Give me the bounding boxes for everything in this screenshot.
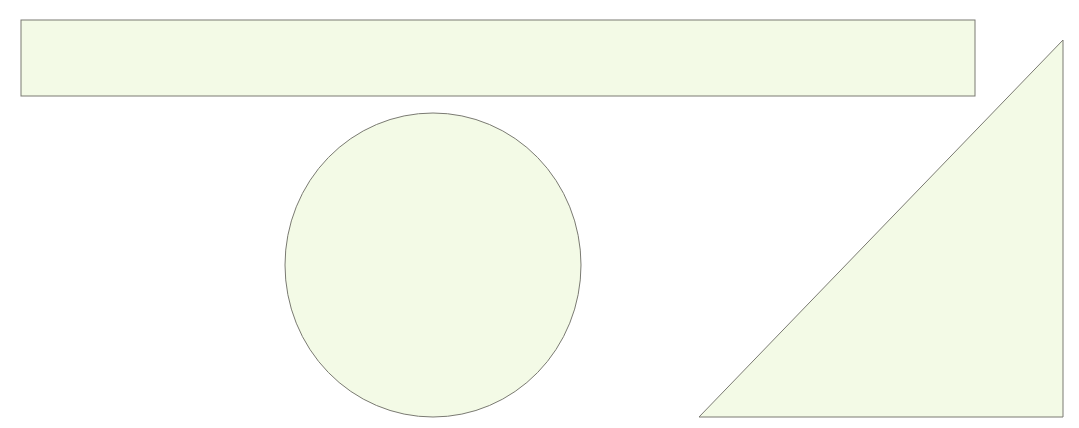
rectangle-shape <box>21 20 975 96</box>
shapes-canvas <box>0 0 1079 428</box>
triangle-shape <box>699 40 1063 417</box>
circle-shape <box>285 113 581 417</box>
